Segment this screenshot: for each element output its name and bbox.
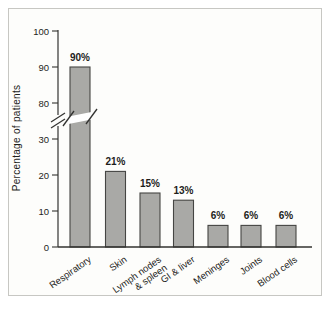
bar-respiratory	[70, 67, 90, 247]
bar-value-label-joints: 6%	[244, 210, 259, 221]
bar-gi-liver	[174, 200, 194, 247]
category-label-blood-cells: Blood cells	[255, 253, 299, 289]
bar-value-label-respiratory: 90%	[70, 52, 90, 63]
y-tick-label-80: 80	[38, 98, 49, 109]
bar-chart-svg: 0102030809010090%21%15%13%6%6%6%Respirat…	[0, 0, 333, 312]
bar-lymph-nodes-spleen	[140, 193, 160, 247]
bar-joints	[241, 225, 261, 247]
figure: 0102030809010090%21%15%13%6%6%6%Respirat…	[0, 0, 333, 312]
category-label-meninges: Meninges	[191, 253, 231, 286]
category-label-respiratory: Respiratory	[47, 253, 93, 290]
y-axis-title: Percentage of patients	[11, 85, 22, 192]
bar-meninges	[208, 225, 228, 247]
bar-value-label-blood-cells: 6%	[279, 210, 294, 221]
y-tick-label-10: 10	[38, 206, 49, 217]
bar-value-label-meninges: 6%	[211, 210, 226, 221]
y-tick-label-20: 20	[38, 170, 49, 181]
bar-value-label-gi-liver: 13%	[173, 185, 193, 196]
bar-blood-cells	[276, 225, 296, 247]
y-tick-label-90: 90	[38, 62, 49, 73]
bar-value-label-skin: 21%	[105, 156, 125, 167]
y-tick-label-30: 30	[38, 134, 49, 145]
bar-value-label-lymph-nodes-spleen: 15%	[140, 178, 160, 189]
category-label-skin: Skin	[107, 254, 128, 274]
category-label-joints: Joints	[237, 253, 264, 276]
y-tick-label-0: 0	[44, 242, 49, 253]
y-tick-label-100: 100	[33, 26, 49, 37]
bar-skin	[106, 171, 126, 247]
